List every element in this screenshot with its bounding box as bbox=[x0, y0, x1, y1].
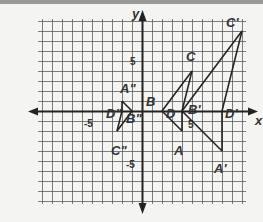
y-axis-label: y bbox=[131, 6, 140, 21]
point-label: A" bbox=[119, 81, 136, 96]
point-label: D" bbox=[106, 106, 122, 121]
point-label: D bbox=[166, 106, 176, 121]
x-axis-label: x bbox=[254, 113, 263, 128]
tick-label: 5 bbox=[130, 56, 136, 67]
point-label: D' bbox=[225, 106, 238, 121]
point-label: B" bbox=[126, 111, 142, 126]
point-label: B bbox=[146, 94, 155, 109]
x-axis-left-arrow bbox=[28, 108, 38, 116]
y-axis-up-arrow bbox=[139, 10, 147, 21]
image-double-prime-edge bbox=[122, 101, 132, 111]
y-axis-down-arrow bbox=[139, 203, 147, 214]
point-label: B' bbox=[188, 102, 201, 117]
tick-label: -5 bbox=[84, 118, 93, 129]
point-label: A bbox=[173, 143, 183, 158]
point-label: C' bbox=[226, 15, 239, 30]
point-label: C" bbox=[111, 143, 127, 158]
point-label: A' bbox=[213, 161, 227, 176]
point-label: C bbox=[186, 49, 196, 64]
coordinate-plane: xy5-55-5BCDAB'C'D'A'B"C"D"A" bbox=[0, 0, 263, 222]
tick-label: -5 bbox=[126, 159, 135, 170]
